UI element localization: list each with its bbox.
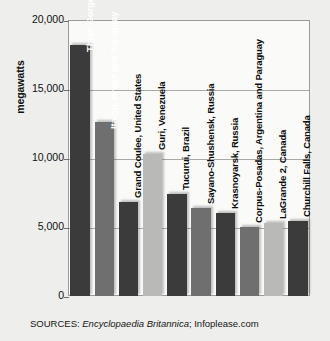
bar-label: Guri, Venezuela bbox=[157, 81, 167, 150]
y-axis-tick-labels: 20,00015,00010,0005,0000 bbox=[2, 0, 64, 341]
y-axis-tick-label: 5,000 bbox=[8, 220, 64, 232]
bar bbox=[95, 122, 114, 296]
y-axis-tick-label: 10,000 bbox=[8, 151, 64, 163]
source-prefix: SOURCES: bbox=[30, 318, 82, 329]
bar bbox=[240, 227, 259, 296]
bar-label: LaGrande 2, Canada bbox=[278, 130, 288, 219]
bar bbox=[288, 221, 307, 296]
y-axis-tick-label: 0 bbox=[8, 289, 64, 301]
bar bbox=[264, 223, 283, 296]
bar-label: Itaipu, Brazil and Paraguay bbox=[109, 12, 119, 129]
bar bbox=[70, 45, 89, 296]
hydroelectric-capacity-bar-chart: megawatts 20,00015,00010,0005,0000 Three… bbox=[0, 0, 330, 341]
bar-label: Krasnoyarsk, Russia bbox=[230, 118, 240, 209]
bar bbox=[119, 202, 138, 296]
bar-label: Tucurui, Brazil bbox=[181, 127, 191, 190]
bar-label: Churchill Falls, Canada bbox=[302, 116, 312, 218]
y-axis-tick-mark bbox=[64, 297, 69, 298]
y-axis-tick-label: 15,000 bbox=[8, 82, 64, 94]
source-suffix: ; Infoplease.com bbox=[189, 318, 259, 329]
y-axis-tick-label: 20,000 bbox=[8, 13, 64, 25]
bar bbox=[191, 208, 210, 296]
source-note: SOURCES: Encyclopaedia Britannica; Infop… bbox=[30, 318, 259, 329]
bar-label: Corpus-Posadas, Argentina and Paraguay bbox=[254, 39, 264, 223]
bar-label: Sayano-Shushensk, Russia bbox=[206, 83, 216, 203]
bar bbox=[143, 154, 162, 296]
bar bbox=[216, 213, 235, 296]
bar-label: Three Gorges, China bbox=[85, 0, 95, 52]
bar-label: Grand Coulee, United States bbox=[133, 74, 143, 198]
source-publication: Encyclopaedia Britannica bbox=[82, 318, 189, 329]
bars-layer: Three Gorges, ChinaItaipu, Brazil and Pa… bbox=[68, 20, 310, 296]
bar bbox=[167, 194, 186, 296]
